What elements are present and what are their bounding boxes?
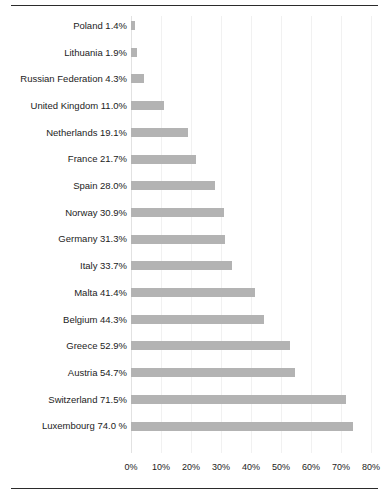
bar-norway (131, 208, 224, 217)
bar-row: Switzerland 71.5% (0, 386, 389, 413)
bar-label-germany: Germany 31.3% (0, 233, 127, 244)
bar-lithuania (131, 48, 137, 57)
bar-label-italy: Italy 33.7% (0, 260, 127, 271)
bar-italy (131, 261, 232, 270)
bar-switzerland (131, 395, 346, 404)
cropped-title-text (60, 0, 320, 1)
bar-poland (131, 21, 135, 30)
bar-row: Luxembourg 74.0 % (0, 413, 389, 440)
x-tick-30: 30% (212, 462, 230, 472)
page-rule-top (11, 5, 378, 6)
x-axis-tick-labels: 0%10%20%30%40%50%60%70%80% (131, 462, 371, 478)
bar-track (131, 12, 389, 39)
bar-row: Norway 30.9% (0, 199, 389, 226)
bar-luxembourg (131, 422, 353, 431)
bar-track (131, 119, 389, 146)
bar-row: Spain 28.0% (0, 172, 389, 199)
bar-row: Lithuania 1.9% (0, 39, 389, 66)
bar-row: Italy 33.7% (0, 252, 389, 279)
bar-label-russian-federation: Russian Federation 4.3% (0, 73, 127, 84)
x-tick-70: 70% (332, 462, 350, 472)
bar-row: Russian Federation 4.3% (0, 65, 389, 92)
bar-greece (131, 341, 290, 350)
bar-label-netherlands: Netherlands 19.1% (0, 127, 127, 138)
bar-france (131, 155, 196, 164)
bar-track (131, 386, 389, 413)
bar-track (131, 279, 389, 306)
x-tick-0: 0% (124, 462, 137, 472)
bar-label-luxembourg: Luxembourg 74.0 % (0, 420, 127, 431)
bar-label-france: France 21.7% (0, 153, 127, 164)
bar-row: United Kingdom 11.0% (0, 92, 389, 119)
bar-track (131, 332, 389, 359)
bar-track (131, 39, 389, 66)
bar-label-spain: Spain 28.0% (0, 180, 127, 191)
bar-row: Belgium 44.3% (0, 306, 389, 333)
bar-label-greece: Greece 52.9% (0, 340, 127, 351)
bar-label-malta: Malta 41.4% (0, 287, 127, 298)
x-tick-80: 80% (362, 462, 380, 472)
bar-row: France 21.7% (0, 146, 389, 173)
x-tick-50: 50% (272, 462, 290, 472)
bar-label-switzerland: Switzerland 71.5% (0, 394, 127, 405)
bar-germany (131, 235, 225, 244)
bar-label-poland: Poland 1.4% (0, 20, 127, 31)
bar-row: Netherlands 19.1% (0, 119, 389, 146)
bar-austria (131, 368, 295, 377)
bar-track (131, 226, 389, 253)
bar-label-lithuania: Lithuania 1.9% (0, 47, 127, 58)
bar-row: Malta 41.4% (0, 279, 389, 306)
page-rule-bottom (11, 488, 378, 489)
bar-netherlands (131, 128, 188, 137)
bar-row: Austria 54.7% (0, 359, 389, 386)
x-tick-40: 40% (242, 462, 260, 472)
bar-track (131, 359, 389, 386)
bar-malta (131, 288, 255, 297)
bar-united-kingdom (131, 101, 164, 110)
x-tick-20: 20% (182, 462, 200, 472)
bar-track (131, 146, 389, 173)
bar-track (131, 413, 389, 440)
bar-belgium (131, 315, 264, 324)
bar-track (131, 252, 389, 279)
bar-row: Germany 31.3% (0, 226, 389, 253)
bar-label-belgium: Belgium 44.3% (0, 314, 127, 325)
x-tick-10: 10% (152, 462, 170, 472)
bar-track (131, 172, 389, 199)
bar-track (131, 199, 389, 226)
bar-row: Greece 52.9% (0, 332, 389, 359)
bar-label-austria: Austria 54.7% (0, 367, 127, 378)
bar-track (131, 306, 389, 333)
horizontal-bar-chart: Poland 1.4%Lithuania 1.9%Russian Federat… (0, 12, 389, 482)
bar-russian-federation (131, 74, 144, 83)
bar-label-norway: Norway 30.9% (0, 207, 127, 218)
bar-track (131, 92, 389, 119)
bar-row: Poland 1.4% (0, 12, 389, 39)
bar-label-united-kingdom: United Kingdom 11.0% (0, 100, 127, 111)
bar-spain (131, 181, 215, 190)
x-tick-60: 60% (302, 462, 320, 472)
bar-track (131, 65, 389, 92)
